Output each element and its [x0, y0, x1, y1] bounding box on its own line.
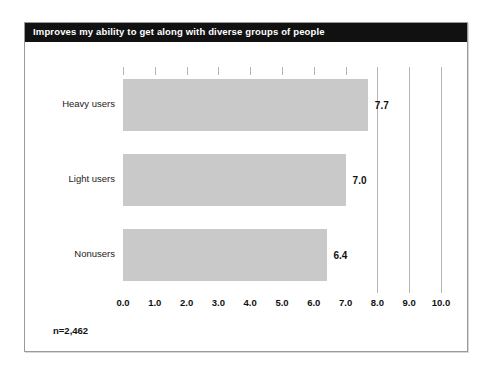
chart-title-bar: Improves my ability to get along with di…	[25, 23, 467, 42]
bar-value-label: 6.4	[334, 250, 348, 261]
gridline-2.0	[187, 67, 188, 75]
bar-heavy-users	[123, 79, 368, 131]
x-tick-label-0.0: 0.0	[116, 297, 129, 308]
bar-nonusers	[123, 229, 327, 281]
plot-area: 7.77.06.4	[123, 67, 441, 293]
gridline-5.0	[282, 67, 283, 75]
gridline-4.0	[250, 67, 251, 75]
x-axis-line	[123, 293, 441, 294]
x-tick-label-9.0: 9.0	[403, 297, 416, 308]
bar-light-users	[123, 154, 346, 206]
x-tick-label-7.0: 7.0	[339, 297, 352, 308]
x-tick-label-10.0: 10.0	[432, 297, 451, 308]
x-tick-label-4.0: 4.0	[244, 297, 257, 308]
bar-row: 7.7	[123, 79, 441, 131]
chart-figure-frame: Improves my ability to get along with di…	[24, 22, 468, 352]
sample-size-annotation: n=2,462	[53, 325, 88, 336]
gridline-7.0	[346, 67, 347, 75]
bar-value-label: 7.7	[375, 99, 389, 110]
gridline-6.0	[314, 67, 315, 75]
x-tick-label-8.0: 8.0	[371, 297, 384, 308]
x-tick-label-5.0: 5.0	[275, 297, 288, 308]
x-axis-tick-labels: 0.01.02.03.04.05.06.07.08.09.010.0	[123, 297, 441, 311]
gridline-0.0	[123, 67, 124, 75]
x-tick-label-6.0: 6.0	[307, 297, 320, 308]
category-label-nonusers: Nonusers	[74, 248, 115, 259]
gridline-10.0	[441, 67, 442, 293]
bar-row: 6.4	[123, 229, 441, 281]
x-tick-label-3.0: 3.0	[212, 297, 225, 308]
page-title: Improves my ability to get along with di…	[33, 26, 325, 37]
category-label-heavy-users: Heavy users	[62, 98, 115, 109]
bar-row: 7.0	[123, 154, 441, 206]
category-axis-labels: Heavy usersLight usersNonusers	[25, 67, 123, 293]
x-tick-label-2.0: 2.0	[180, 297, 193, 308]
gridline-3.0	[218, 67, 219, 75]
category-label-light-users: Light users	[69, 173, 115, 184]
x-tick-label-1.0: 1.0	[148, 297, 161, 308]
bar-value-label: 7.0	[353, 175, 367, 186]
gridline-1.0	[155, 67, 156, 75]
